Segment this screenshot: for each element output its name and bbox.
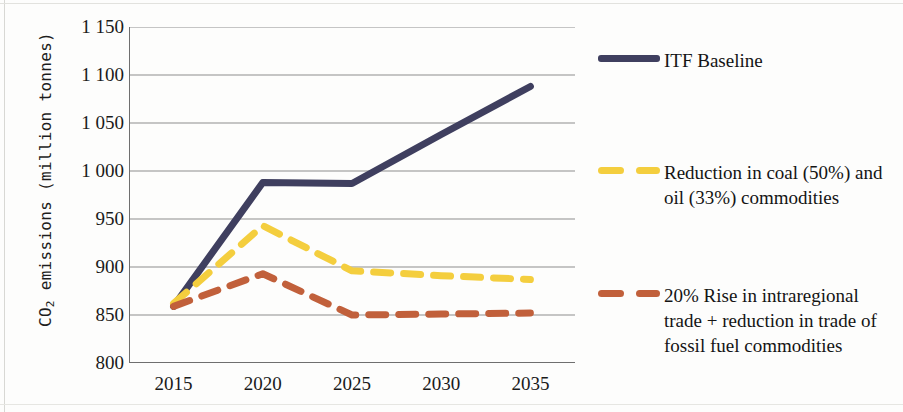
legend-swatch-dashed — [598, 290, 660, 297]
y-axis-tick-labels: 1 1501 1001 0501 000950900850800 — [48, 0, 124, 412]
legend-dash — [598, 290, 624, 297]
y-axis-tick-label: 850 — [52, 305, 124, 324]
legend-swatch-solid — [598, 55, 660, 62]
legend-dash — [636, 290, 660, 297]
chart-page: CO2 emissions (million tonnes) 1 1501 10… — [0, 0, 903, 412]
x-axis-tick-label: 2020 — [218, 374, 307, 393]
page-edge-top — [0, 3, 903, 4]
data-series-group — [174, 87, 531, 315]
plot-svg — [129, 27, 575, 363]
legend-dash — [636, 167, 660, 174]
page-edge-bottom — [0, 404, 903, 405]
y-axis-tick-label: 1 050 — [52, 113, 124, 132]
x-axis-tick-label: 2025 — [308, 374, 397, 393]
y-axis-tick-label: 900 — [52, 257, 124, 276]
y-axis-tick-label: 950 — [52, 209, 124, 228]
x-axis-tick-labels: 20152020202520302035 — [129, 374, 575, 400]
legend-swatch-dashed — [598, 167, 660, 174]
y-axis-tick-label: 800 — [52, 353, 124, 372]
x-axis-tick-label: 2030 — [397, 374, 486, 393]
chart-legend: ITF BaselineReduction in coal (50%) and … — [598, 30, 898, 400]
y-axis-tick-label: 1 100 — [52, 65, 124, 84]
page-edge-left — [4, 0, 5, 412]
legend-label: 20% Rise in intraregional trade + reduct… — [664, 283, 896, 358]
plot-area — [129, 27, 575, 363]
y-axis-tick-label: 1 150 — [52, 17, 124, 36]
y-axis-tick-label: 1 000 — [52, 161, 124, 180]
legend-label: Reduction in coal (50%) and oil (33%) co… — [664, 160, 896, 210]
legend-dash — [598, 167, 624, 174]
legend-label: ITF Baseline — [664, 48, 896, 73]
x-axis-tick-label: 2035 — [486, 374, 575, 393]
x-axis-tick-label: 2015 — [129, 374, 218, 393]
